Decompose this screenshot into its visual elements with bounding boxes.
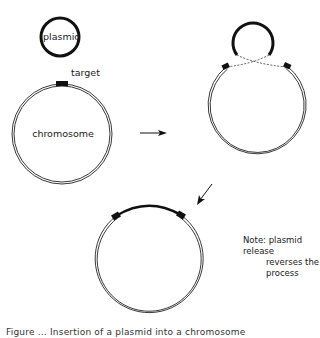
plasmid-arc-aligned: [233, 23, 273, 55]
note-text: Note: plasmid release reverses the proce…: [243, 235, 320, 279]
integrated-plasmid-arc: [116, 206, 181, 216]
arrow-right-icon: [140, 130, 167, 136]
note-line-3: process: [243, 268, 320, 279]
figure-caption: Figure ... Insertion of a plasmid into a…: [6, 327, 245, 338]
arrow-down-left-icon: [197, 184, 212, 205]
target-site-left: [221, 62, 229, 69]
note-line-2: reverses the: [243, 257, 320, 268]
chromosome-circle-stage3: [95, 215, 203, 313]
chromosome-label: chromosome: [29, 128, 97, 139]
target-label: target: [71, 67, 100, 78]
chromosome-circle-stage2: [208, 66, 306, 154]
target-site-marker: [56, 81, 68, 86]
note-line-1: Note: plasmid release: [243, 235, 320, 257]
crossover-dashes: [226, 55, 286, 67]
plasmid-label: plasmid: [43, 31, 77, 42]
